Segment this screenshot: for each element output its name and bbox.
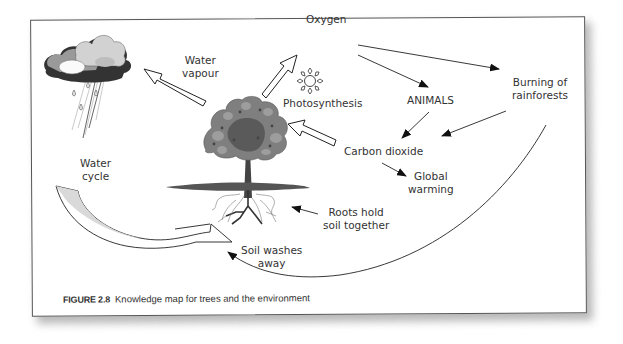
- arrow-oxygen-to-animals: [358, 55, 428, 87]
- label-soil-washes-away: Soil washes away: [241, 244, 302, 270]
- tree-icon: [166, 96, 310, 224]
- arrow-oxygen-to-burning: [358, 45, 499, 69]
- arrow-burning-to-co2: [442, 111, 506, 136]
- label-oxygen: Oxygen: [306, 13, 346, 26]
- label-global-warming: Global warming: [408, 170, 454, 196]
- label-carbon-dioxide: Carbon dioxide: [344, 145, 423, 158]
- sun-icon: [297, 68, 323, 94]
- block-arrow-to-oxygen: [262, 55, 297, 98]
- arrow-co2-to-warming: [382, 163, 406, 176]
- label-photosynthesis: Photosynthesis: [283, 97, 362, 110]
- rain-cloud-icon: [44, 35, 131, 138]
- figure-caption-text: Knowledge map for trees and the environm…: [115, 292, 310, 304]
- label-burning-of-rainforests: Burning of rainforests: [512, 76, 568, 102]
- label-water-cycle: Water cycle: [80, 157, 111, 183]
- label-animals: ANIMALS: [407, 94, 454, 107]
- water-cycle-block-arrow: [56, 186, 232, 248]
- arrow-animals-to-co2: [402, 112, 429, 138]
- arrow-roots-to-tree: [292, 207, 318, 214]
- label-water-vapour: Water vapour: [182, 54, 219, 80]
- figure-page: Water vapour Oxygen Photosynthesis ANIMA…: [0, 0, 623, 344]
- block-arrow-to-tree: [288, 120, 336, 146]
- figure-caption: FIGURE 2.8Knowledge map for trees and th…: [63, 292, 310, 305]
- label-roots-hold-soil: Roots hold soil together: [323, 206, 389, 232]
- figure-number: FIGURE 2.8: [63, 294, 110, 304]
